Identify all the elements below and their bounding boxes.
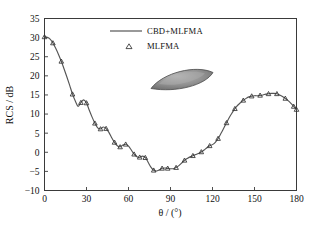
legend-label-mlfma: MLFMA <box>147 41 180 51</box>
x-tick-label: 180 <box>289 194 304 204</box>
y-tick-label: 0 <box>35 148 40 158</box>
y-tick-label: 35 <box>30 14 40 24</box>
y-tick-label: 25 <box>30 52 40 62</box>
x-tick-label: 60 <box>124 194 134 204</box>
y-tick-label: 5 <box>35 129 40 139</box>
x-tick-label: 120 <box>205 194 220 204</box>
y-tick-label: −5 <box>29 167 39 177</box>
y-tick-label: −10 <box>25 186 40 196</box>
y-axis-title: RCS / dB <box>4 86 15 125</box>
almond-target-geometry <box>151 69 213 89</box>
chart-canvas: −10−505101520253035 0306090120150180 RCS… <box>0 0 316 231</box>
legend-triangle-swatch <box>126 44 132 49</box>
y-tick-label: 30 <box>30 33 40 43</box>
series-line-cbd-mlfma <box>45 37 297 171</box>
y-tick-label: 20 <box>30 71 40 81</box>
y-tick-label: 15 <box>30 90 40 100</box>
legend: CBD+MLFMA MLFMA <box>110 26 203 51</box>
legend-label-cbd-mlfma: CBD+MLFMA <box>147 26 203 36</box>
x-tick-label: 90 <box>166 194 176 204</box>
x-tick-label: 150 <box>247 194 262 204</box>
x-tick-label: 0 <box>42 194 47 204</box>
x-axis-ticks: 0306090120150180 <box>42 187 304 204</box>
x-axis-title: θ / (°) <box>158 207 181 219</box>
y-tick-label: 10 <box>30 109 40 119</box>
x-tick-label: 30 <box>82 194 92 204</box>
rcs-chart-figure: −10−505101520253035 0306090120150180 RCS… <box>0 0 316 231</box>
